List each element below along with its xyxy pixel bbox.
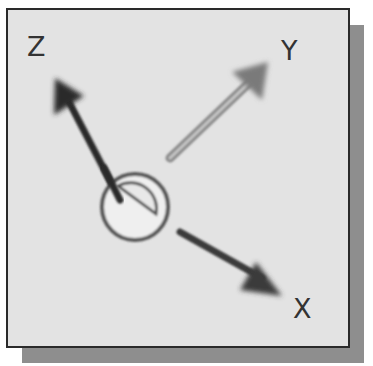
y-axis-arrow (170, 82, 250, 158)
x-axis-label: X (293, 295, 312, 322)
coordinate-triad (0, 0, 373, 366)
z-axis-label: Z (27, 33, 46, 60)
y-axis-label: Y (281, 37, 298, 64)
x-axis-arrow (180, 232, 262, 278)
